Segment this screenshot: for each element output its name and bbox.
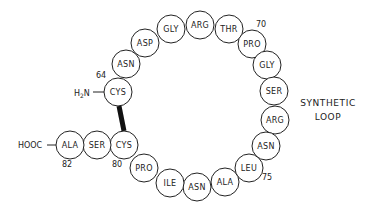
residue-label: ARG xyxy=(266,116,284,125)
residue-arg: ARG xyxy=(186,11,214,39)
residue-label: GLY xyxy=(163,25,178,34)
residue-arg: ARG xyxy=(261,106,289,134)
residue-cys-64: CYS xyxy=(104,78,132,106)
residue-label: ASN xyxy=(117,60,134,69)
residue-number-82: 82 xyxy=(62,160,72,169)
residue-pro: PRO xyxy=(130,154,158,182)
residue-label: PRO xyxy=(135,164,153,173)
residue-label: ILE xyxy=(164,179,177,188)
disulfide-bond xyxy=(119,106,124,131)
residue-ser: SER xyxy=(83,131,111,159)
residue-label: LEU xyxy=(241,164,257,173)
residue-label: CYS xyxy=(116,141,132,150)
residue-cys-80: CYS xyxy=(110,131,138,159)
residue-number-70: 70 xyxy=(256,20,266,29)
residue-label: CYS xyxy=(110,88,126,97)
n-terminus-label: H2N xyxy=(74,89,90,99)
residue-ala-82: ALA xyxy=(56,131,84,159)
residue-label: SER xyxy=(89,141,106,150)
residue-asp: ASP xyxy=(131,29,159,57)
residue-gly: GLY xyxy=(157,15,185,43)
loop-label-line2: LOOP xyxy=(315,112,342,122)
residue-label: ALA xyxy=(62,141,79,150)
residue-number-64: 64 xyxy=(96,71,106,80)
residue-label: ASN xyxy=(257,142,274,151)
residue-asn: ASN xyxy=(183,173,211,201)
residue-ala-75: ALA xyxy=(211,168,239,196)
residue-label: ASN xyxy=(188,183,205,192)
residue-ile: ILE xyxy=(156,169,184,197)
residue-label: GLY xyxy=(259,61,274,70)
residue-number-75: 75 xyxy=(262,173,272,182)
residue-label: PRO xyxy=(243,40,261,49)
residue-number-80: 80 xyxy=(112,160,122,169)
loop-label-line1: SYNTHETIC xyxy=(300,98,356,108)
residue-gly: GLY xyxy=(253,51,281,79)
residue-label: SER xyxy=(266,87,283,96)
residue-label: THR xyxy=(219,25,238,34)
residue-label: ASP xyxy=(137,39,153,48)
residue-label: ARG xyxy=(191,21,209,30)
peptide-loop-diagram: CYSASNASPGLYARGTHRPROGLYSERARGASNLEUALAA… xyxy=(0,0,377,214)
residue-leu: LEU xyxy=(235,154,263,182)
residue-label: ALA xyxy=(217,178,234,187)
c-terminus-label: HOOC xyxy=(18,141,43,150)
residue-ser: SER xyxy=(260,77,288,105)
